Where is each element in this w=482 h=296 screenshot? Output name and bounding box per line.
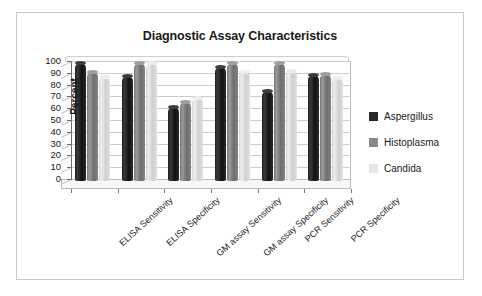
bar-cap xyxy=(332,76,343,80)
bar-cap xyxy=(262,89,273,93)
bar[interactable] xyxy=(122,76,133,181)
bar-group xyxy=(122,63,157,181)
bar[interactable] xyxy=(180,102,191,181)
x-tick-mark xyxy=(351,189,352,193)
bar-cap xyxy=(308,73,319,77)
bar-cap xyxy=(180,100,191,104)
bar[interactable] xyxy=(168,107,179,181)
bar-group xyxy=(308,63,343,181)
bar-cap xyxy=(192,96,203,100)
bar-cap xyxy=(227,61,238,65)
bar[interactable] xyxy=(332,78,343,181)
chart-title: Diagnostic Assay Characteristics xyxy=(17,29,463,43)
bar[interactable] xyxy=(215,67,226,181)
bar-cap xyxy=(99,75,110,79)
legend-item[interactable]: Histoplasma xyxy=(369,137,469,148)
bar-group xyxy=(215,63,250,181)
bar[interactable] xyxy=(146,63,157,181)
gridline xyxy=(71,61,351,62)
y-axis-title: Percent xyxy=(69,62,80,132)
legend-swatch-icon xyxy=(369,164,378,173)
bar[interactable] xyxy=(99,77,110,181)
bar-cap xyxy=(215,65,226,69)
x-tick-label: PCR Specificity xyxy=(349,195,402,244)
y-tick-label: 30 xyxy=(29,139,61,149)
legend-swatch-icon xyxy=(369,112,378,121)
y-tick-label: 20 xyxy=(29,150,61,160)
y-tick-label: 90 xyxy=(29,68,61,78)
bar-cap xyxy=(239,70,250,74)
x-tick-mark xyxy=(71,189,72,193)
bar-group xyxy=(262,63,297,181)
bar[interactable] xyxy=(87,72,98,181)
bar[interactable] xyxy=(239,72,250,181)
bar-cap xyxy=(168,105,179,109)
bar-cap xyxy=(122,74,133,78)
bar-cap xyxy=(87,70,98,74)
x-tick-mark xyxy=(118,189,119,193)
bar[interactable] xyxy=(274,63,285,181)
y-tick-label: 0 xyxy=(29,174,61,184)
bar[interactable] xyxy=(227,63,238,181)
bar[interactable] xyxy=(192,98,203,181)
bar[interactable] xyxy=(134,63,145,181)
legend-swatch-icon xyxy=(369,138,378,147)
bar-cap xyxy=(286,69,297,73)
x-tick-mark xyxy=(164,189,165,193)
legend-label: Aspergillus xyxy=(384,111,433,122)
y-tick-label: 40 xyxy=(29,127,61,137)
y-tick-label: 10 xyxy=(29,162,61,172)
bar-cap xyxy=(274,61,285,65)
y-tick-label: 60 xyxy=(29,103,61,113)
bar[interactable] xyxy=(308,75,319,181)
legend-label: Histoplasma xyxy=(384,137,439,148)
legend-item[interactable]: Candida xyxy=(369,163,469,174)
x-tick-mark xyxy=(211,189,212,193)
y-tick-mark xyxy=(67,132,72,133)
plot-area: 1009080706050403020100 ELISA Sensitivity… xyxy=(61,61,351,191)
bar-cap xyxy=(134,61,145,65)
y-tick-mark xyxy=(67,167,72,168)
bar-cap xyxy=(320,72,331,76)
bar-group xyxy=(168,63,203,181)
legend: AspergillusHistoplasmaCandida xyxy=(369,111,469,189)
y-tick-label: 100 xyxy=(29,56,61,66)
bar[interactable] xyxy=(286,71,297,181)
y-tick-label: 70 xyxy=(29,91,61,101)
bar-cap xyxy=(146,61,157,65)
legend-label: Candida xyxy=(384,163,421,174)
y-tick-label: 50 xyxy=(29,115,61,125)
chart-frame: Diagnostic Assay Characteristics 1009080… xyxy=(16,12,464,280)
x-tick-mark xyxy=(304,189,305,193)
y-tick-mark xyxy=(67,179,72,180)
bar-group xyxy=(75,63,110,181)
y-tick-mark xyxy=(67,144,72,145)
x-tick-mark xyxy=(258,189,259,193)
y-tick-label: 80 xyxy=(29,80,61,90)
bar[interactable] xyxy=(262,91,273,181)
y-tick-mark xyxy=(67,155,72,156)
legend-item[interactable]: Aspergillus xyxy=(369,111,469,122)
bar[interactable] xyxy=(320,74,331,181)
